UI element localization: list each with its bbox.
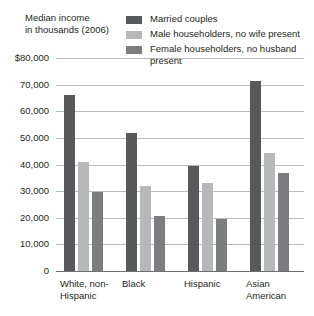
- y-axis-tick-label: 40,000: [20, 160, 49, 170]
- chart-axis-title: Median income in thousands (2006): [25, 12, 135, 36]
- legend-item-male-householders: Male householders, no wife present: [126, 28, 311, 40]
- chart-bar: [188, 166, 199, 271]
- legend-swatch-male-householders: [126, 31, 142, 39]
- chart-plot-area: $80,00070,00060,00050,00040,00030,00020,…: [56, 58, 304, 271]
- chart-bar: [154, 216, 165, 271]
- chart-bar-group: [118, 58, 180, 271]
- legend-label-male-householders: Male householders, no wife present: [150, 28, 311, 40]
- chart-x-axis-labels: White, non-HispanicBlackHispanicAsianAme…: [56, 278, 304, 314]
- legend-label-married-couples: Married couples: [150, 13, 311, 25]
- x-axis-category-label: White, non-Hispanic: [60, 278, 109, 302]
- chart-bar: [140, 186, 151, 271]
- chart-figure: Median income in thousands (2006) Marrie…: [0, 0, 314, 316]
- y-axis-tick-label: 20,000: [20, 213, 49, 223]
- y-axis-tick-label: 60,000: [20, 106, 49, 116]
- axis-title-line-2: in thousands (2006): [25, 24, 135, 36]
- y-axis-tick-label: $80,000: [15, 53, 49, 63]
- chart-bar-group: [180, 58, 242, 271]
- chart-bar: [92, 192, 103, 271]
- chart-bar: [126, 133, 137, 271]
- chart-bar: [250, 81, 261, 271]
- chart-bar-group: [242, 58, 304, 271]
- y-axis-tick-label: 30,000: [20, 186, 49, 196]
- chart-bar: [264, 153, 275, 271]
- chart-bar: [278, 173, 289, 272]
- legend-swatch-female-householders: [126, 46, 142, 54]
- x-axis-category-label: AsianAmerican: [246, 278, 286, 302]
- x-axis-category-label: Hispanic: [184, 278, 220, 290]
- y-axis-tick-label: 10,000: [20, 239, 49, 249]
- chart-bar: [64, 95, 75, 271]
- chart-bar-group: [56, 58, 118, 271]
- axis-title-line-1: Median income: [25, 12, 135, 24]
- chart-bar: [78, 162, 89, 271]
- chart-bar: [216, 219, 227, 271]
- legend-item-married-couples: Married couples: [126, 13, 311, 25]
- y-axis-tick-label: 0: [44, 266, 49, 276]
- x-axis-category-label: Black: [122, 278, 145, 290]
- y-axis-tick-label: 70,000: [20, 80, 49, 90]
- chart-bar: [202, 183, 213, 271]
- y-axis-tick-label: 50,000: [20, 133, 49, 143]
- chart-baseline: 0: [56, 271, 304, 272]
- chart-bars: [56, 58, 304, 271]
- legend-swatch-married-couples: [126, 16, 142, 24]
